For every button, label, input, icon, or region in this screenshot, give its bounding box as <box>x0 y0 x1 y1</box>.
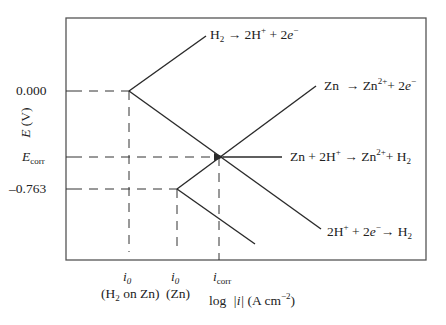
r-sub: 2 <box>220 34 225 44</box>
y-tick-label-ecorr: Ecorr <box>22 150 45 164</box>
r-part: H <box>398 224 408 239</box>
x-tick-i0-zn: i0 <box>171 270 179 284</box>
r-part: Zn <box>361 149 376 164</box>
y-tick-label-0: 0.000 <box>16 84 46 98</box>
arrow-icon: → <box>381 224 395 239</box>
ecorr-subscript: corr <box>30 156 45 166</box>
r-part: Zn + 2H <box>290 149 336 164</box>
r-sup: 2+ <box>378 76 388 86</box>
zn-reduction-line <box>177 189 255 244</box>
y-tick-label-0763: –0.763 <box>9 182 46 196</box>
y-axis-var: E <box>18 130 33 138</box>
arrow-icon: → <box>346 78 360 93</box>
label-overall-reaction: Zn + 2H+ → Zn2++ H2 <box>290 150 411 164</box>
x-axis-title: log |i| (A cm−2) <box>209 294 295 308</box>
unit-close: ) <box>291 293 296 308</box>
y-axis-title: E (V) <box>19 106 33 138</box>
r-sup: 2+ <box>376 147 386 157</box>
zn-oxidation-line <box>177 86 316 189</box>
r-part: 2H <box>327 224 344 239</box>
i-subscript: 0 <box>175 276 180 286</box>
r-sub: 2 <box>407 156 412 166</box>
r-sup: − <box>411 76 416 86</box>
r-sub: 2 <box>407 231 412 241</box>
y-axis-unit: (V) <box>18 107 33 126</box>
r-part: 2H <box>245 27 262 42</box>
r-part: + H <box>386 149 407 164</box>
r-part: + 2 <box>387 78 405 93</box>
label-h2-oxidation: H2 → 2H+ + 2e− <box>210 28 298 42</box>
r-sup: + <box>261 25 266 35</box>
r-sup: − <box>293 25 298 35</box>
h2-oxidation-line <box>129 36 206 91</box>
x-tick-desc-zn: (Zn) <box>166 287 190 301</box>
r-sup: + <box>336 147 341 157</box>
r-part: Zn <box>324 78 339 93</box>
x-tick-desc-h2-on-zn: (H2 on Zn) <box>101 287 160 301</box>
ecorr-symbol: E <box>22 149 30 164</box>
r-part: H <box>210 27 220 42</box>
r-part: + 2 <box>269 27 287 42</box>
label-h-reduction: 2H+ + 2e−→ H2 <box>327 225 412 239</box>
x-tick-i0-h2: i0 <box>123 270 131 284</box>
i-subscript: corr <box>217 276 232 286</box>
r-part: Zn <box>363 78 378 93</box>
x-tick-icorr: icorr <box>213 270 231 284</box>
desc-rest: on Zn) <box>120 286 160 301</box>
i-subscript: 0 <box>127 276 132 286</box>
r-sup: + <box>344 222 349 232</box>
unit: (A cm <box>248 293 281 308</box>
unit-exp: −2 <box>281 291 291 301</box>
arrow-icon: → <box>344 149 358 164</box>
r-part: + 2 <box>352 224 370 239</box>
desc-part: (H <box>101 286 115 301</box>
log-text: log <box>209 293 226 308</box>
arrow-icon: → <box>228 27 242 42</box>
abs-i: |i| <box>233 293 244 308</box>
label-zn-oxidation: Zn → Zn2++ 2e− <box>324 79 416 93</box>
